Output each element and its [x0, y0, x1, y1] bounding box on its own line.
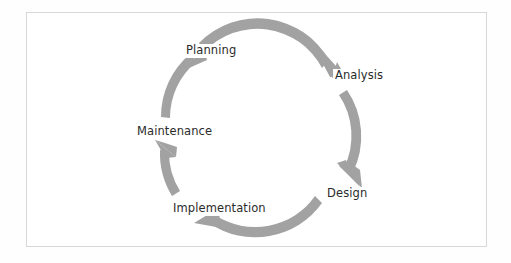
diagram-canvas: Planning Analysis Design Implementation … [0, 0, 511, 263]
cycle-diagram-graphic [0, 0, 511, 263]
stage-label-maintenance: Maintenance [135, 125, 214, 139]
stage-label-design: Design [325, 187, 369, 201]
stage-label-analysis: Analysis [333, 69, 385, 83]
stage-label-implementation: Implementation [171, 202, 268, 216]
arrow-implementation-to-maintenance [155, 140, 180, 196]
stage-label-planning: Planning [184, 44, 238, 58]
arrow-analysis-to-design [337, 90, 362, 188]
